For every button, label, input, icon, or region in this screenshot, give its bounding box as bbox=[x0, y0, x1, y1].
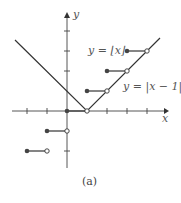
y-axis-label: y bbox=[72, 8, 80, 21]
floor-label: y = ⌊x⌋ bbox=[87, 44, 126, 57]
floor-function bbox=[27, 51, 147, 151]
graph-figure: y x y = ⌊x⌋ y = |x − 1| (a) bbox=[0, 0, 181, 203]
x-axis-label: x bbox=[162, 112, 169, 125]
y-axis-arrow-icon bbox=[64, 12, 70, 18]
abs-label: y = |x − 1| bbox=[122, 80, 181, 94]
figure-caption: (a) bbox=[82, 175, 97, 188]
